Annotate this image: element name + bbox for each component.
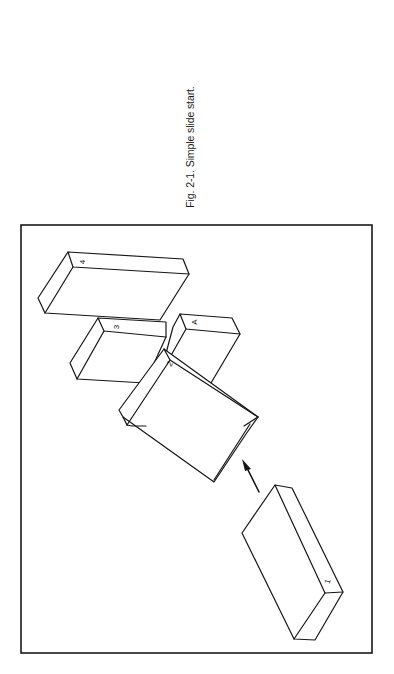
block-1: 1 (242, 485, 343, 640)
block-label-4: 4 (78, 259, 87, 264)
block-label-3: 3 (112, 324, 121, 329)
slide-diagram: 4 3 A 2 1 (0, 0, 394, 674)
movement-arrow (242, 459, 259, 492)
block-4: 4 (38, 252, 189, 320)
block-label-A: A (190, 319, 199, 325)
arrow-head-icon (242, 459, 251, 471)
